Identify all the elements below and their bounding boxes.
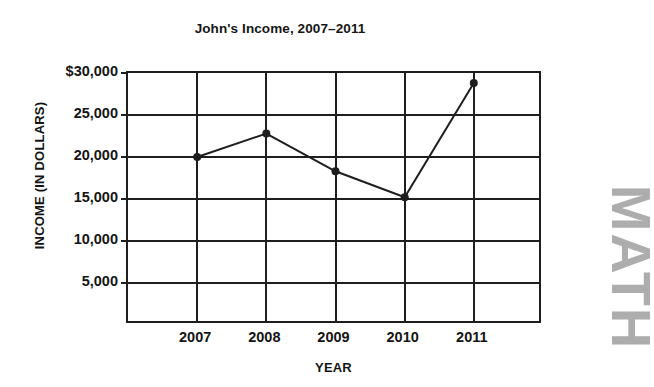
x-axis-tick-label: 2009 (299, 329, 369, 345)
x-axis-tick-label: 2011 (437, 329, 507, 345)
gridline-vertical (473, 73, 475, 321)
gridline-vertical (335, 73, 337, 321)
gridline-horizontal (128, 282, 539, 284)
y-axis-title: INCOME (IN DOLLARS) (32, 76, 47, 276)
math-watermark: MATH (599, 173, 654, 363)
gridline-horizontal (128, 156, 539, 158)
gridline-vertical (196, 73, 198, 321)
x-axis-tick-labels: 20072008200920102011 (126, 329, 541, 353)
chart-title: John's Income, 2007–2011 (0, 21, 560, 36)
x-axis-title: YEAR (126, 360, 541, 375)
gridline-vertical (265, 73, 267, 321)
y-axis-tick-label: $30,000 (40, 63, 118, 79)
x-axis-tick-label: 2010 (368, 329, 438, 345)
y-axis-tick-label: 15,000 (40, 189, 118, 205)
gridline-horizontal (128, 198, 539, 200)
y-axis-tick-label: 25,000 (40, 105, 118, 121)
y-axis-tick (121, 240, 128, 242)
x-axis-tick-label: 2007 (160, 329, 230, 345)
plot-area (126, 71, 541, 323)
x-axis-tick-label: 2008 (229, 329, 299, 345)
y-axis-tick (121, 156, 128, 158)
y-axis-tick-label: 10,000 (40, 231, 118, 247)
y-axis-tick-labels: $30,00025,00020,00015,00010,0005,000 (40, 71, 118, 323)
gridline-horizontal (128, 240, 539, 242)
gridline-horizontal (128, 114, 539, 116)
y-axis-tick (121, 198, 128, 200)
y-axis-tick-label: 20,000 (40, 147, 118, 163)
gridline-vertical (404, 73, 406, 321)
y-axis-tick (121, 72, 128, 74)
y-axis-tick (121, 282, 128, 284)
y-axis-tick-label: 5,000 (40, 273, 118, 289)
y-axis-tick (121, 114, 128, 116)
